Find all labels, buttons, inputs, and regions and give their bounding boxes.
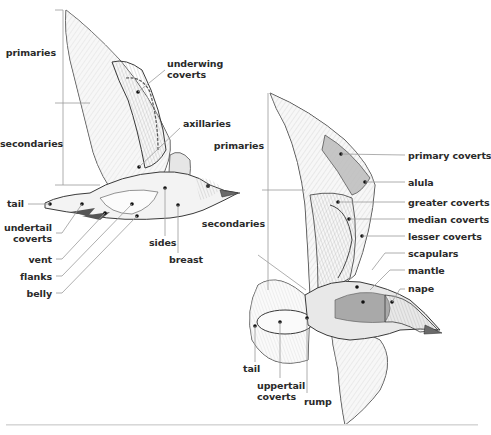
label-left-vent: vent: [0, 254, 52, 265]
label-right-uppertail-coverts-2: coverts: [257, 391, 296, 402]
right-mantle-area: [335, 292, 390, 322]
label-left-flanks: flanks: [0, 271, 52, 282]
label-right-greater-coverts: greater coverts: [408, 197, 490, 208]
label-left-undertail-coverts-2: coverts: [0, 233, 52, 244]
label-right-primaries: primaries: [200, 140, 264, 151]
label-right-rump: rump: [304, 396, 332, 407]
right-uppertail-coverts-area: [257, 310, 313, 334]
label-right-median-coverts: median coverts: [408, 214, 489, 225]
label-left-sides: sides: [149, 237, 176, 248]
label-right-nape: nape: [408, 283, 434, 294]
label-left-belly: belly: [0, 288, 52, 299]
label-left-primaries: primaries: [4, 47, 56, 58]
label-left-axillaries: axillaries: [183, 118, 231, 129]
label-right-mantle: mantle: [408, 265, 445, 276]
left-bird: [28, 10, 240, 293]
label-left-breast: breast: [169, 254, 203, 265]
label-left-underwing-coverts-2: coverts: [167, 69, 206, 80]
label-right-tail: tail: [243, 363, 260, 374]
label-right-primary-coverts: primary coverts: [408, 150, 491, 161]
label-left-tail: tail: [0, 198, 24, 209]
label-left-secondaries: secondaries: [0, 138, 58, 149]
right-bird: [250, 93, 442, 425]
label-right-alula: alula: [408, 177, 434, 188]
label-right-secondaries: secondaries: [195, 218, 265, 229]
label-right-lesser-coverts: lesser coverts: [408, 231, 482, 242]
label-right-scapulars: scapulars: [408, 248, 458, 259]
label-left-undertail-coverts-1: undertail: [0, 222, 52, 233]
label-right-uppertail-coverts-1: uppertail: [257, 380, 305, 391]
footer-divider: [6, 424, 478, 426]
label-left-underwing-coverts-1: underwing: [167, 58, 223, 69]
